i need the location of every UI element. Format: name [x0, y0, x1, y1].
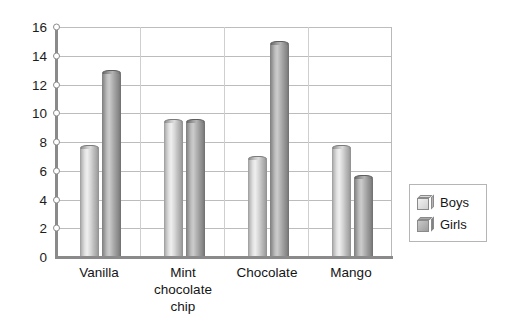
y-tick-label-12: 12 [7, 77, 47, 92]
bars-layer [57, 27, 392, 257]
x-tick-label-line3: chip [141, 298, 225, 315]
cube-side-face [431, 216, 434, 231]
legend-label-boys: Boys [440, 195, 469, 210]
y-tick-marker-4 [53, 196, 60, 203]
bar-mango-boys[interactable] [332, 145, 351, 257]
bar-chart: 16 14 12 10 8 6 4 2 0 Vanilla Mint choco… [0, 0, 512, 335]
legend-item-boys[interactable]: Boys [417, 191, 486, 213]
bar-vanilla-boys[interactable] [80, 145, 99, 257]
bar-body [248, 160, 267, 257]
bar-body [186, 123, 205, 257]
y-tick-marker-6 [53, 167, 60, 174]
y-tick-marker-2 [53, 225, 60, 232]
bar-mango-girls[interactable] [354, 175, 373, 257]
y-tick-label-10: 10 [7, 106, 47, 121]
y-tick-label-0: 0 [7, 250, 47, 265]
bar-chocolate-girls[interactable] [270, 41, 289, 257]
bar-body [102, 74, 121, 257]
bar-mint-chocolate-chip-boys[interactable] [164, 119, 183, 257]
x-axis-line [55, 256, 393, 259]
x-tick-label-line2: chocolate [141, 281, 225, 298]
y-tick-label-8: 8 [7, 135, 47, 150]
bar-vanilla-girls[interactable] [102, 70, 121, 257]
x-tick-label-line1: Mint [141, 264, 225, 281]
y-tick-label-4: 4 [7, 192, 47, 207]
y-tick-label-6: 6 [7, 163, 47, 178]
legend: Boys Girls [409, 184, 487, 242]
y-tick-marker-14 [53, 52, 60, 59]
cube-icon [417, 217, 434, 232]
bar-chocolate-boys[interactable] [248, 156, 267, 257]
bar-mint-chocolate-chip-girls[interactable] [186, 119, 205, 257]
bar-body [332, 149, 351, 257]
y-tick-marker-16 [53, 24, 60, 31]
bar-body [164, 123, 183, 257]
y-tick-marker-12 [53, 81, 60, 88]
y-tick-marker-8 [53, 139, 60, 146]
legend-label-girls: Girls [440, 217, 467, 232]
bar-body [80, 149, 99, 257]
x-tick-label-vanilla: Vanilla [57, 264, 141, 281]
x-tick-label-chocolate: Chocolate [225, 264, 309, 281]
y-tick-label-2: 2 [7, 221, 47, 236]
legend-item-girls[interactable]: Girls [417, 213, 486, 235]
bar-body [270, 45, 289, 257]
y-tick-label-14: 14 [7, 48, 47, 63]
x-tick-label-mint-chocolate-chip: Mint chocolate chip [141, 264, 225, 315]
y-axis-labels: 16 14 12 10 8 6 4 2 0 [0, 0, 47, 335]
bar-body [354, 179, 373, 257]
y-tick-label-16: 16 [7, 20, 47, 35]
x-tick-label-mango: Mango [309, 264, 393, 281]
cube-icon [417, 195, 434, 210]
cube-front-face [417, 198, 429, 210]
cube-side-face [431, 194, 434, 209]
cube-front-face [417, 220, 429, 232]
y-tick-marker-10 [53, 110, 60, 117]
